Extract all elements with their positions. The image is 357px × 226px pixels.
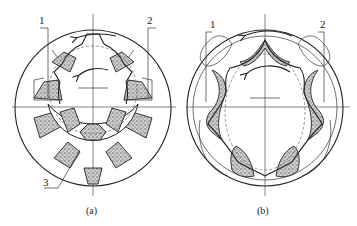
outer-rotation-arrow-b <box>244 31 292 36</box>
label-1-a: 1 <box>39 14 45 26</box>
panel-a-internal-gear-pump: 1 2 3 (a) <box>12 14 176 217</box>
caption-b: (b) <box>257 205 269 217</box>
kidney-port-right-top-b <box>298 36 330 66</box>
kidney-port-left-top-b <box>200 36 232 66</box>
label-2-b: 2 <box>320 18 326 30</box>
label-2-a: 2 <box>147 14 153 26</box>
inner-rotation-arrow-b <box>246 66 290 74</box>
label-3-a: 3 <box>43 176 49 188</box>
label-1-b: 1 <box>210 18 216 30</box>
figure-canvas: 1 2 3 (a) <box>0 0 357 226</box>
caption-a: (a) <box>86 205 97 217</box>
outer-rotation-arrow-a <box>76 34 116 38</box>
panel-b-gerotor-pump: 1 2 (b) <box>186 14 350 217</box>
